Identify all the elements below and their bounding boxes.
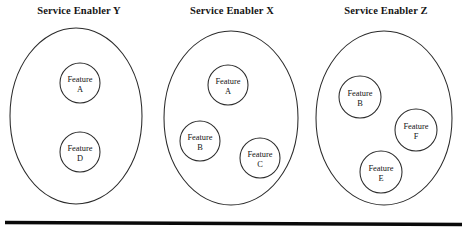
enabler-group-z: Service Enabler ZFeatureBFeatureFFeature… <box>316 5 452 205</box>
feature-label-id: A <box>77 85 83 94</box>
feature-label-id: D <box>77 154 83 163</box>
feature-label-word: Feature <box>67 75 92 84</box>
diagram-canvas: Service Enabler YFeatureAFeatureDService… <box>0 0 462 232</box>
baseline-rule <box>5 223 462 225</box>
feature-label-word: Feature <box>247 150 272 159</box>
feature-label-id: B <box>197 143 203 152</box>
feature-node[interactable]: FeatureD <box>60 132 100 172</box>
enabler-title: Service Enabler Y <box>37 5 121 16</box>
feature-label-word: Feature <box>403 122 428 131</box>
feature-label-word: Feature <box>368 164 393 173</box>
feature-label-word: Feature <box>187 133 212 142</box>
enabler-boundary-ellipse <box>10 28 142 204</box>
feature-label-id: C <box>257 160 263 169</box>
enabler-group-x: Service Enabler XFeatureAFeatureBFeature… <box>164 5 298 205</box>
feature-label-word: Feature <box>347 89 372 98</box>
enabler-title: Service Enabler Z <box>344 5 427 16</box>
feature-label-id: A <box>225 87 231 96</box>
feature-label-word: Feature <box>67 144 92 153</box>
enabler-group-y: Service Enabler YFeatureAFeatureD <box>10 5 142 204</box>
feature-label-id: E <box>378 174 383 183</box>
feature-node[interactable]: FeatureC <box>240 138 280 178</box>
feature-label-id: B <box>357 99 363 108</box>
feature-node[interactable]: FeatureE <box>360 151 402 193</box>
enabler-boundary-ellipse <box>164 31 298 205</box>
feature-node[interactable]: FeatureA <box>60 63 100 103</box>
feature-label-word: Feature <box>215 77 240 86</box>
feature-node[interactable]: FeatureF <box>395 109 437 151</box>
feature-label-id: F <box>414 132 419 141</box>
feature-node[interactable]: FeatureA <box>208 65 248 105</box>
enabler-title: Service Enabler X <box>190 5 274 16</box>
feature-node[interactable]: FeatureB <box>180 121 220 161</box>
diagram-root: Service Enabler YFeatureAFeatureDService… <box>0 0 462 232</box>
feature-node[interactable]: FeatureB <box>339 76 381 118</box>
